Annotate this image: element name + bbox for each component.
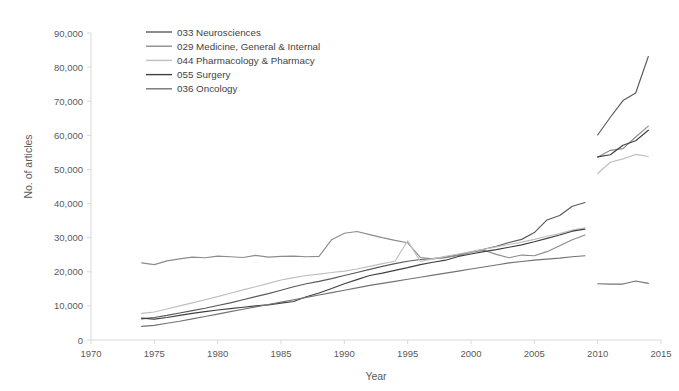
- y-tick-label: 40,000: [54, 198, 83, 209]
- x-tick-label: 2010: [587, 348, 608, 359]
- series-line: [598, 126, 649, 157]
- x-tick-label: 1970: [80, 348, 101, 359]
- axes-layer: [87, 33, 661, 344]
- x-axis-title: Year: [365, 370, 387, 382]
- y-tick-label: 10,000: [54, 300, 83, 311]
- chart-container: 010,00020,00030,00040,00050,00060,00070,…: [0, 0, 679, 391]
- x-axis-tick-labels: 1970197519801985199019952000200520102015: [80, 348, 671, 359]
- x-tick-label: 2005: [524, 348, 545, 359]
- y-tick-label: 80,000: [54, 62, 83, 73]
- chart-legend: 033 Neurosciences029 Medicine, General &…: [146, 27, 320, 95]
- legend-item-label: 036 Oncology: [177, 83, 238, 94]
- series-line: [598, 281, 649, 284]
- x-tick-label: 1995: [397, 348, 418, 359]
- y-tick-label: 60,000: [54, 130, 83, 141]
- x-tick-label: 1980: [207, 348, 228, 359]
- series-line: [142, 203, 585, 319]
- line-chart: 010,00020,00030,00040,00050,00060,00070,…: [0, 0, 679, 391]
- legend-item-label: 044 Pharmacology & Pharmacy: [177, 55, 315, 66]
- series-line: [598, 154, 649, 173]
- legend-item-label: 029 Medicine, General & Internal: [177, 41, 320, 52]
- series-line: [598, 57, 649, 135]
- x-tick-label: 2015: [650, 348, 671, 359]
- y-tick-label: 0: [78, 335, 83, 346]
- y-tick-label: 20,000: [54, 266, 83, 277]
- x-tick-label: 2000: [460, 348, 481, 359]
- y-axis-title: No. of articles: [22, 134, 34, 198]
- y-tick-label: 50,000: [54, 164, 83, 175]
- series-line: [142, 256, 585, 327]
- series-line: [142, 232, 585, 265]
- y-tick-label: 90,000: [54, 28, 83, 39]
- y-axis-tick-labels: 010,00020,00030,00040,00050,00060,00070,…: [54, 28, 83, 346]
- x-tick-label: 1985: [270, 348, 291, 359]
- y-tick-label: 30,000: [54, 232, 83, 243]
- y-tick-label: 70,000: [54, 96, 83, 107]
- series-layer: [142, 57, 649, 327]
- legend-item-label: 055 Surgery: [177, 69, 230, 80]
- x-tick-label: 1975: [144, 348, 165, 359]
- x-tick-label: 1990: [334, 348, 355, 359]
- legend-item-label: 033 Neurosciences: [177, 27, 261, 38]
